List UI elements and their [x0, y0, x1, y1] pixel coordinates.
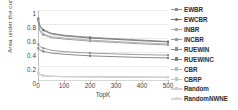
- series-marker: [37, 73, 39, 75]
- legend-item[interactable]: EWCBR: [171, 15, 208, 25]
- y-tick-label: 0.6: [27, 38, 36, 46]
- y-tick-label: 0.2: [27, 66, 36, 74]
- legend-marker-icon: [171, 94, 182, 103]
- series-marker: [42, 50, 44, 52]
- series-marker: [42, 47, 44, 49]
- y-tick-label: 0.4: [27, 52, 36, 60]
- series-marker: [42, 34, 44, 36]
- legend-marker-icon: [171, 35, 182, 44]
- legend-label: EWCBR: [184, 15, 208, 24]
- x-tick-label: 200: [85, 82, 96, 90]
- legend-marker-icon: [171, 65, 182, 74]
- y-axis-title: Area under the curve: [4, 0, 16, 59]
- series-marker: [89, 76, 91, 78]
- series-marker: [167, 44, 169, 46]
- legend-item[interactable]: RUEWIN: [171, 45, 209, 55]
- series-marker: [167, 76, 169, 78]
- x-tick-label: 300: [111, 82, 122, 90]
- series-marker: [42, 29, 44, 31]
- series-marker: [37, 43, 39, 45]
- legend-item[interactable]: CBR: [171, 64, 198, 74]
- x-axis-title: TopK: [38, 91, 168, 98]
- legend-label: INBR: [184, 25, 199, 34]
- legend-item[interactable]: RUEWINC: [171, 55, 214, 65]
- y-tick-label: 1: [32, 10, 36, 18]
- x-tick-label: 0: [36, 82, 40, 90]
- series-marker: [89, 37, 91, 39]
- gridline: [38, 80, 168, 81]
- x-tick-label: 400: [137, 82, 148, 90]
- series-marker: [167, 57, 169, 59]
- y-tick-label: 0.8: [27, 24, 36, 32]
- legend-label: CBRP: [184, 75, 202, 84]
- legend-marker-icon: [171, 25, 182, 34]
- legend-item[interactable]: EWBR: [171, 5, 203, 15]
- series-marker: [37, 20, 39, 22]
- series-marker: [89, 40, 91, 42]
- legend-label: Random: [184, 84, 209, 93]
- series-marker: [37, 47, 39, 49]
- legend-label: INCBR: [184, 35, 204, 44]
- legend-item[interactable]: INBR: [171, 25, 199, 35]
- series-lines: [38, 10, 168, 80]
- legend-marker-icon: [171, 15, 182, 24]
- series-marker: [89, 55, 91, 57]
- series-line: [38, 48, 168, 58]
- legend-label: EWBR: [184, 5, 203, 14]
- legend-marker-icon: [171, 55, 182, 64]
- legend-item[interactable]: RandomNWNE: [171, 94, 228, 104]
- y-axis-tick-labels: 00.20.40.60.81: [16, 4, 36, 88]
- legend-item[interactable]: CBRP: [171, 74, 202, 84]
- legend-marker-icon: [171, 84, 182, 93]
- legend-label: RUEWINC: [184, 55, 214, 64]
- chart-figure: Area under the curve 00.20.40.60.81 0100…: [0, 0, 238, 110]
- legend-marker-icon: [171, 75, 182, 84]
- x-tick-label: 100: [59, 82, 70, 90]
- legend-label: RandomNWNE: [184, 94, 228, 103]
- legend-marker-icon: [171, 45, 182, 54]
- series-marker: [42, 75, 44, 77]
- legend: EWBREWCBRINBRINCBRRUEWINRUEWINCCBRCBRPRa…: [171, 5, 238, 107]
- legend-item[interactable]: INCBR: [171, 35, 204, 45]
- series-marker: [167, 54, 169, 56]
- plot-area: [38, 10, 168, 80]
- legend-label: RUEWIN: [184, 45, 209, 54]
- legend-item[interactable]: Random: [171, 84, 209, 94]
- legend-label: CBR: [184, 65, 198, 74]
- series-marker: [167, 41, 169, 43]
- series-marker: [89, 52, 91, 54]
- legend-marker-icon: [171, 5, 182, 14]
